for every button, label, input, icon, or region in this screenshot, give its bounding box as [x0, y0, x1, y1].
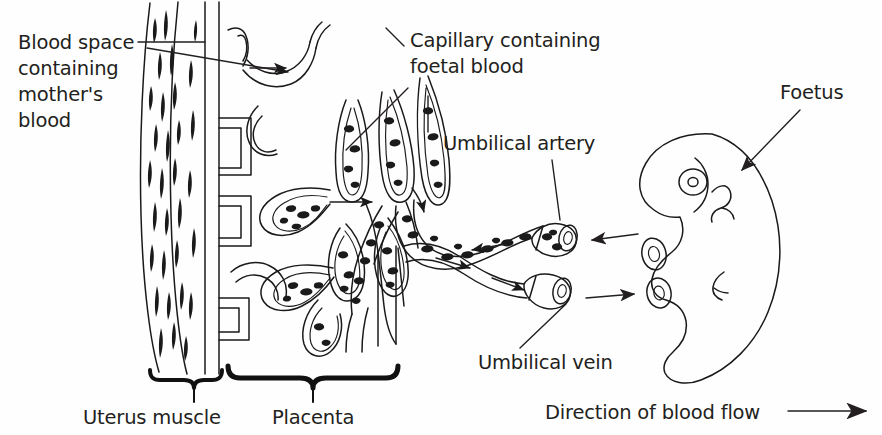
uterus-muscle-brace	[150, 370, 222, 402]
vein-arrow-pointing-right	[586, 294, 634, 298]
foetus-leader	[742, 110, 800, 170]
capillary-leader-short	[386, 28, 404, 46]
label-blood-space-line2: containing	[18, 57, 119, 80]
foetus-leg-bud	[713, 272, 728, 300]
label-capillary-line1: Capillary containing	[410, 29, 600, 52]
foetus-eye	[679, 169, 707, 195]
label-uterus-muscle: Uterus muscle	[83, 406, 221, 429]
intervillous-blood-space	[231, 22, 330, 300]
label-blood-space-line1: Blood space	[18, 31, 134, 54]
umbilical-artery-leader	[552, 160, 560, 220]
foetus-outline	[639, 134, 780, 383]
label-umbilical-artery: Umbilical artery	[443, 132, 595, 155]
umbilical-cord	[346, 200, 580, 352]
maternal-vessel-stubs	[219, 28, 251, 340]
foetus-arm-bud	[711, 186, 734, 222]
label-capillary-line2: foetal blood	[410, 55, 524, 78]
diagram-canvas: Blood space containing mother's blood Ca…	[0, 0, 882, 435]
umbilical-vein-leader	[520, 304, 566, 348]
foetal-vessel-cross-sections	[639, 236, 674, 310]
placental-villi	[260, 76, 450, 356]
artery-arrow-pointing-left	[592, 234, 638, 240]
label-foetus: Foetus	[780, 81, 843, 104]
braces	[150, 366, 398, 402]
blood-space-leader-2	[147, 48, 288, 72]
label-blood-space-line4: blood	[18, 109, 71, 132]
placenta-brace	[228, 366, 398, 402]
label-umbilical-vein: Umbilical vein	[478, 351, 613, 374]
umbilical-artery-cut-end	[532, 223, 580, 256]
label-placenta: Placenta	[272, 406, 354, 429]
muscle-fibre-hatching	[148, 10, 197, 361]
label-blood-flow: Direction of blood flow	[545, 401, 760, 424]
placenta-diagram: Blood space containing mother's blood Ca…	[0, 0, 882, 435]
label-blood-space-line3: mother's	[18, 83, 103, 106]
